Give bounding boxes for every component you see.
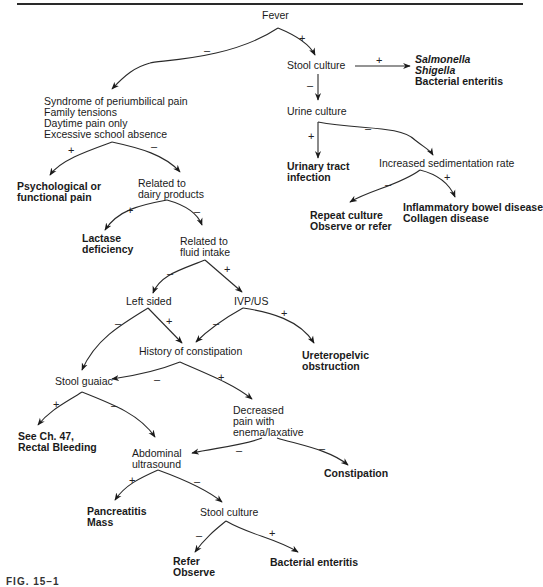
label-syndrome-neg: – xyxy=(151,141,157,152)
label-guaiac-pos: + xyxy=(53,399,59,410)
edge-left-hx xyxy=(148,308,182,343)
label-fluid-neg: – xyxy=(167,268,173,279)
node-bacterial-enteritis-top: Salmonella Shigella Bacterial enteritis xyxy=(415,54,503,87)
edge-fluid-left xyxy=(153,260,205,293)
node-urine-culture: Urine culture xyxy=(287,106,347,117)
label-dairy-neg: – xyxy=(194,206,200,217)
see-ch-line2: Rectal Bleeding xyxy=(18,442,97,453)
node-bacterial-enteritis-bottom: Bacterial enteritis xyxy=(270,557,358,568)
label-hx-neg: – xyxy=(154,374,160,385)
ibd-line2: Collagen disease xyxy=(403,213,543,224)
label-decreased-neg-right: – xyxy=(319,443,325,454)
label-left-pos: + xyxy=(166,316,172,327)
upj-line2: obstruction xyxy=(302,361,369,372)
label-abd-neg: – xyxy=(194,476,200,487)
label-ivp-pos: + xyxy=(281,308,287,319)
edge-abd-panc xyxy=(115,470,158,500)
edge-decreased-abd xyxy=(192,438,262,453)
edge-dairy-lactase xyxy=(105,200,167,230)
label-fever-pos: + xyxy=(299,33,305,44)
node-fever: Fever xyxy=(262,10,289,21)
refer-line2: Observe xyxy=(173,567,215,578)
node-lactase-deficiency: Lactase deficiency xyxy=(82,233,133,255)
node-refer-observe: Refer Observe xyxy=(173,556,215,578)
label-esr-pos: + xyxy=(444,172,450,183)
label-syndrome-pos: + xyxy=(68,145,74,156)
fluid-line2: fluid intake xyxy=(180,247,230,258)
label-dairy-pos: + xyxy=(127,205,133,216)
node-constipation: Constipation xyxy=(324,468,388,479)
node-see-ch-47: See Ch. 47, Rectal Bleeding xyxy=(18,431,97,453)
edge-abd-stool xyxy=(158,470,222,502)
pancreatitis-line2: Mass xyxy=(87,517,147,528)
dairy-line2: dairy products xyxy=(138,189,204,200)
psych-line2: functional pain xyxy=(17,192,101,203)
node-psychological-pain: Psychological or functional pain xyxy=(17,181,101,203)
edge-urine-esr xyxy=(318,122,433,155)
bacterial-enteritis-label: Bacterial enteritis xyxy=(415,76,503,87)
uti-line2: infection xyxy=(287,172,349,183)
label-decreased-neg-left: – xyxy=(236,445,242,456)
edge-guaiac-seech xyxy=(38,392,82,425)
label-left-neg: – xyxy=(115,318,121,329)
edge-hx-guaiac xyxy=(112,362,180,379)
node-pancreatitis-mass: Pancreatitis Mass xyxy=(87,506,147,528)
label-stool-bottom-pos: + xyxy=(269,528,275,539)
node-repeat-culture: Repeat culture Observe or refer xyxy=(310,210,392,232)
edge-ivp-hx xyxy=(196,308,243,342)
label-abd-pos: + xyxy=(129,475,135,486)
node-increased-sed-rate: Increased sedimentation rate xyxy=(379,158,514,169)
node-urinary-tract-infection: Urinary tract infection xyxy=(287,161,349,183)
edge-syn-psych xyxy=(50,142,112,175)
edge-fever-neg xyxy=(112,28,278,89)
node-stool-culture-bottom: Stool culture xyxy=(200,507,258,518)
edge-decreased-constipation xyxy=(277,438,348,465)
node-history-constipation: History of constipation xyxy=(139,346,242,357)
node-periumbilical-syndrome: Syndrome of periumbilical pain Family te… xyxy=(44,96,188,140)
label-urine-neg: – xyxy=(365,123,371,134)
node-left-sided: Left sided xyxy=(126,296,172,307)
lactase-line2: deficiency xyxy=(82,244,133,255)
label-stool-bottom-neg: – xyxy=(196,530,202,541)
syndrome-line4: Excessive school absence xyxy=(44,129,188,140)
label-hx-pos: + xyxy=(218,372,224,383)
node-stool-guaiac: Stool guaiac xyxy=(55,376,113,387)
figure-caption: FIG. 15–1 xyxy=(6,576,59,587)
decreased-line3: enema/laxative xyxy=(233,427,304,438)
repeat-line2: Observe or refer xyxy=(310,221,392,232)
edge-ivp-upj xyxy=(243,308,314,343)
label-fever-neg: – xyxy=(204,45,210,56)
label-stool-top-neg: – xyxy=(307,80,313,91)
label-guaiac-neg: – xyxy=(111,400,117,411)
edge-hx-decreased xyxy=(180,362,252,399)
abd-us-line2: ultrasound xyxy=(132,459,182,470)
node-ibd-collagen: Inflammatory bowel disease Collagen dise… xyxy=(403,202,543,224)
label-esr-neg: – xyxy=(385,179,391,190)
label-urine-pos: + xyxy=(308,131,314,142)
node-ureteropelvic-obstruction: Ureteropelvic obstruction xyxy=(302,350,369,372)
label-stool-top-pos: + xyxy=(376,55,382,66)
node-abdominal-ultrasound: Abdominal ultrasound xyxy=(132,448,182,470)
edge-fever-pos xyxy=(278,28,315,55)
label-fluid-pos: + xyxy=(224,264,230,275)
label-ivp-neg: – xyxy=(213,318,219,329)
node-ivp-us: IVP/US xyxy=(234,296,268,307)
node-stool-culture-top: Stool culture xyxy=(287,60,345,71)
node-related-dairy: Related to dairy products xyxy=(138,178,204,200)
node-related-fluid: Related to fluid intake xyxy=(180,236,230,258)
edge-syn-dairy xyxy=(112,142,180,172)
node-decreased-pain-enema: Decreased pain with enema/laxative xyxy=(233,405,304,438)
edge-stoolb-bact xyxy=(226,521,298,552)
